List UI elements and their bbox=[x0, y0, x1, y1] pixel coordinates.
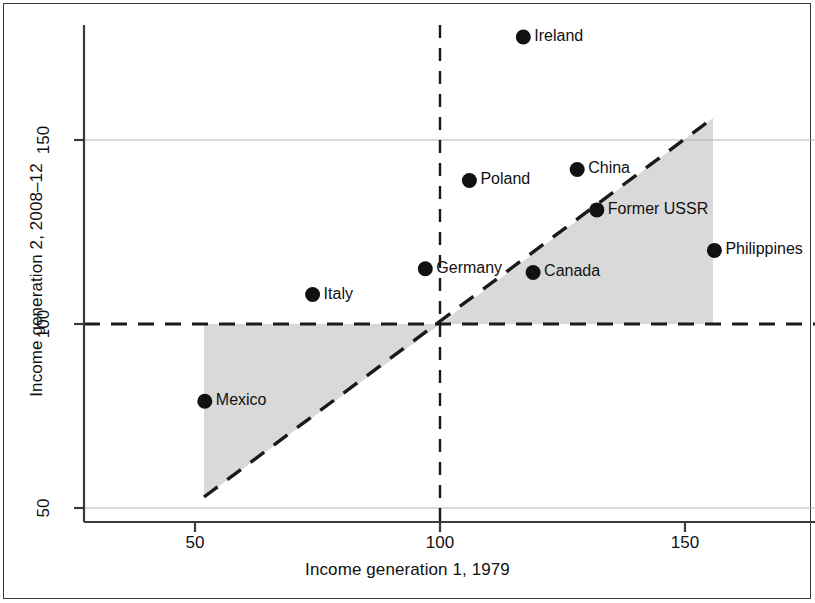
data-point-label: Poland bbox=[480, 170, 530, 188]
scatter-plot-figure: Income generation 1, 1979 Income generat… bbox=[0, 0, 815, 603]
data-point-label: Italy bbox=[324, 285, 353, 303]
data-point-label: Former USSR bbox=[608, 200, 708, 218]
y-tick-label-50: 50 bbox=[34, 478, 54, 538]
data-point-label: Mexico bbox=[216, 391, 267, 409]
data-point-label: Germany bbox=[436, 259, 502, 277]
plot-canvas bbox=[0, 0, 815, 603]
x-axis-title: Income generation 1, 1979 bbox=[0, 560, 815, 580]
x-tick-label-100: 100 bbox=[410, 533, 470, 553]
data-point-marker bbox=[305, 287, 320, 302]
y-tick-label-150: 150 bbox=[34, 110, 54, 170]
data-point-label: Ireland bbox=[534, 27, 583, 45]
data-point-label: China bbox=[588, 159, 630, 177]
data-point-label: Canada bbox=[544, 262, 600, 280]
x-tick-label-150: 150 bbox=[655, 533, 715, 553]
x-tick-label-50: 50 bbox=[165, 533, 225, 553]
data-point-marker bbox=[462, 173, 477, 188]
data-point-marker bbox=[707, 243, 722, 258]
y-tick-label-100: 100 bbox=[34, 294, 54, 354]
data-point-marker bbox=[516, 29, 531, 44]
y-axis-ticks bbox=[74, 140, 84, 508]
data-point-marker bbox=[197, 394, 212, 409]
data-point-marker bbox=[418, 261, 433, 276]
data-point-marker bbox=[589, 202, 604, 217]
x-axis-ticks bbox=[195, 522, 685, 532]
data-point-marker bbox=[570, 162, 585, 177]
data-point-label: Philippines bbox=[725, 240, 802, 258]
data-point-marker bbox=[526, 265, 541, 280]
